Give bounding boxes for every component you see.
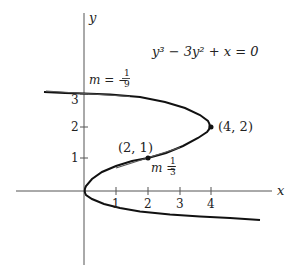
slope-a-numerator: 1: [170, 156, 176, 166]
slope-c-numerator: 1: [124, 68, 130, 78]
y-tick-label-1: 1: [71, 151, 79, 165]
curve-diagram: x y 1 2 3 4 1 2 3 y³ − 3y² + x = 0 (2, 1…: [0, 0, 300, 280]
x-axis-label: x: [277, 183, 285, 198]
point-2-1: [146, 156, 151, 161]
point-label-2-1: (2, 1): [118, 140, 153, 155]
x-tick-label-4: 4: [207, 197, 215, 211]
tangent-line-c: [46, 91, 130, 97]
slope-label-c: m = −: [89, 73, 128, 87]
equation-label: y³ − 3y² + x = 0: [151, 44, 258, 59]
y-axis-label: y: [88, 10, 97, 25]
point-4-2: [209, 125, 214, 130]
slope-a-denominator: 3: [170, 167, 176, 177]
x-tick-label-1: 1: [112, 197, 120, 211]
point-label-4-2: (4, 2): [218, 119, 253, 134]
x-tick-label-2: 2: [144, 197, 152, 211]
y-tick-label-3: 3: [71, 93, 79, 107]
x-tick-label-3: 3: [176, 197, 184, 211]
y-tick-label-2: 2: [71, 120, 79, 134]
slope-c-denominator: 9: [124, 79, 130, 89]
